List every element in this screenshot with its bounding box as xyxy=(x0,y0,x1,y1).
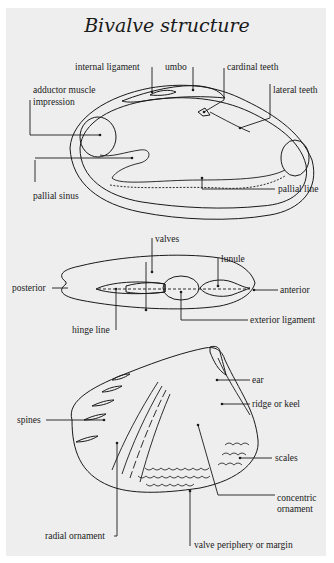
label-radial-ornament: radial ornament xyxy=(45,531,105,541)
hinge-area xyxy=(96,282,165,294)
lateral-groove xyxy=(210,112,250,132)
label-pallial-line: pallial line xyxy=(278,184,318,194)
label-valves: valves xyxy=(155,234,180,244)
concentric-scales xyxy=(138,443,249,486)
label-scales: scales xyxy=(275,453,298,463)
label-pallial-sinus: pallial sinus xyxy=(33,191,79,201)
label-concentric-line1: concentric xyxy=(277,493,317,503)
label-valve-periphery: valve periphery or margin xyxy=(194,540,293,550)
interior-view: internal ligament umbo cardinal teeth la… xyxy=(30,62,318,219)
label-lunule: lunule xyxy=(221,254,245,264)
label-hinge-line: hinge line xyxy=(72,325,110,335)
pallial-line-shape xyxy=(100,150,285,182)
label-spines: spines xyxy=(17,415,41,425)
label-posterior: posterior xyxy=(12,283,47,293)
leader-pallial-sinus xyxy=(35,158,132,182)
lunule-shape xyxy=(200,280,250,296)
label-anterior: anterior xyxy=(280,285,310,295)
radial-ornament-lines xyxy=(112,382,170,482)
label-internal-ligament: internal ligament xyxy=(75,62,140,72)
dorsal-view: valves lunule posterior anterior hinge l… xyxy=(12,234,316,335)
label-concentric-line2: ornament xyxy=(277,504,313,514)
leader-concentric xyxy=(198,425,275,495)
leader-radial xyxy=(114,443,117,536)
label-adductor-line1: adductor muscle xyxy=(33,85,96,95)
anterior-adductor-scar xyxy=(281,140,309,176)
bivalve-diagram: Bivalve structure internal ligament umbo… xyxy=(0,0,334,563)
interior-surface xyxy=(80,98,307,208)
label-ear: ear xyxy=(252,375,264,385)
exterior-view: ear ridge or keel spines scales concentr… xyxy=(17,346,317,550)
label-umbo: umbo xyxy=(165,62,187,72)
posterior-adductor-scar xyxy=(80,117,116,157)
shell-outline xyxy=(70,85,314,219)
label-cardinal-teeth: cardinal teeth xyxy=(227,62,279,72)
label-ridge-or-keel: ridge or keel xyxy=(252,399,300,409)
ridge-line xyxy=(218,358,250,415)
spines-group xyxy=(76,374,130,442)
exterior-ligament-strip xyxy=(126,283,165,294)
label-exterior-ligament: exterior ligament xyxy=(250,315,316,325)
leader-cardinal-teeth xyxy=(204,68,224,112)
label-adductor-line2: impression xyxy=(33,97,75,107)
label-lateral-teeth: lateral teeth xyxy=(273,85,318,95)
diagram-title: Bivalve structure xyxy=(83,14,250,36)
